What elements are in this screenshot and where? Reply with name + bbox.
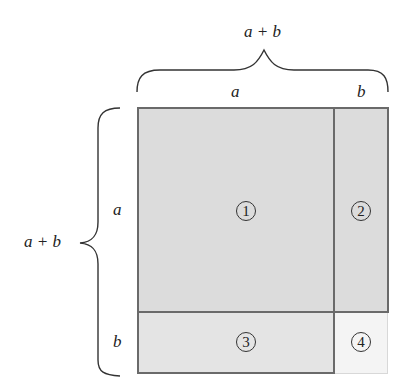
top-label-b: b (357, 82, 366, 102)
top-brace (137, 50, 388, 92)
region-label-3: 3 (236, 332, 256, 352)
left-label-b: b (113, 332, 122, 352)
left-brace-label: a + b (24, 232, 61, 252)
region-label-2: 2 (351, 201, 371, 221)
top-brace-label: a + b (244, 22, 281, 42)
region-label-4: 4 (351, 332, 371, 352)
top-label-a: a (231, 82, 240, 102)
left-label-a: a (113, 200, 122, 220)
region-label-1: 1 (236, 201, 256, 221)
